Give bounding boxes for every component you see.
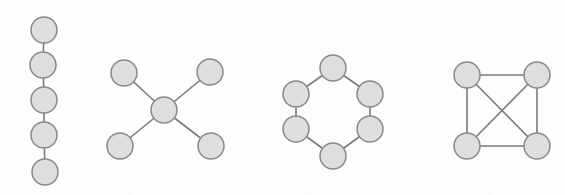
graph-node xyxy=(524,133,550,159)
graph-node xyxy=(454,62,480,88)
graph-canvas xyxy=(0,0,565,195)
graph-node xyxy=(357,116,383,142)
graph-node xyxy=(111,60,137,86)
graph-node xyxy=(198,133,224,159)
graph-node xyxy=(107,133,133,159)
graph-node xyxy=(197,59,223,85)
graph-node xyxy=(32,159,58,185)
graph-node xyxy=(31,122,57,148)
graph-node xyxy=(31,17,57,43)
nodes-layer xyxy=(30,17,550,185)
graph-node xyxy=(151,97,177,123)
graph-node xyxy=(320,55,346,81)
graph-node xyxy=(524,62,550,88)
graph-node xyxy=(283,116,309,142)
graph-node xyxy=(320,143,346,169)
graph-node xyxy=(283,81,309,107)
graph-figure xyxy=(0,0,565,195)
graph-node xyxy=(454,133,480,159)
graph-node xyxy=(30,52,56,78)
graph-node xyxy=(357,81,383,107)
graph-node xyxy=(31,87,57,113)
